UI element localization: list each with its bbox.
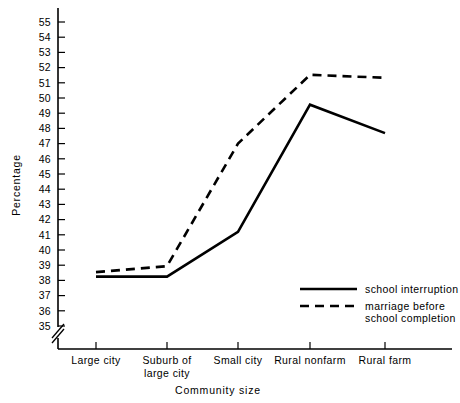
- line-chart: 55 54 53 52 51 50 49 48 47 46 45 44 43 4…: [0, 0, 460, 403]
- y-tick-label: 53: [39, 46, 51, 58]
- y-tick-label: 38: [39, 274, 51, 286]
- x-tick-label-large-city: Large city: [71, 354, 121, 366]
- x-tick-label-suburb-line1: Suburb of: [142, 354, 191, 366]
- y-tick-label: 48: [39, 122, 51, 134]
- y-axis-title: Percentage: [10, 154, 22, 216]
- y-tick-label: 35: [39, 320, 51, 332]
- y-tick-label: 36: [39, 305, 51, 317]
- x-tick-label-small-city: Small city: [214, 354, 263, 366]
- legend-label-marriage-before: marriage before: [365, 300, 445, 312]
- y-tick-label: 45: [39, 168, 51, 180]
- legend-label-school-interruption: school interruption: [365, 283, 458, 295]
- x-tick-label-rural-nonfarm: Rural nonfarm: [274, 354, 346, 366]
- y-tick-label: 49: [39, 107, 51, 119]
- x-tick-label-rural-farm: Rural farm: [358, 354, 411, 366]
- y-tick-label: 44: [39, 183, 51, 195]
- y-tick-label: 55: [39, 16, 51, 28]
- y-tick-label: 41: [39, 229, 51, 241]
- y-tick-label: 39: [39, 259, 51, 271]
- y-tick-label: 46: [39, 153, 51, 165]
- y-tick-label: 47: [39, 137, 51, 149]
- y-tick-label: 40: [39, 244, 51, 256]
- y-tick-label: 51: [39, 77, 51, 89]
- y-tick-label: 52: [39, 61, 51, 73]
- y-tick-label: 43: [39, 198, 51, 210]
- legend-label-school-completion: school completion: [365, 312, 456, 324]
- y-tick-label: 42: [39, 213, 51, 225]
- y-tick-label: 54: [39, 31, 51, 43]
- chart-background: [0, 0, 460, 403]
- chart-figure: 55 54 53 52 51 50 49 48 47 46 45 44 43 4…: [0, 0, 460, 403]
- y-tick-label: 50: [39, 92, 51, 104]
- x-tick-label-suburb-line2: large city: [144, 367, 190, 379]
- x-axis-title: Community size: [175, 384, 261, 396]
- y-tick-label: 37: [39, 289, 51, 301]
